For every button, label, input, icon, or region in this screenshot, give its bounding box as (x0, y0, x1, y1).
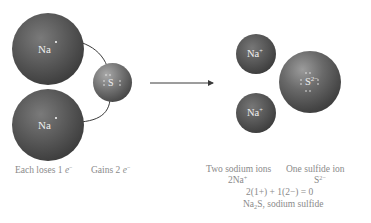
compound-name: Na2S, sodium sulfide (243, 200, 323, 210)
caption-sulfide-ion: One sulfide ion (286, 165, 345, 175)
caption-na-loses: Each loses 1 e− (15, 166, 73, 176)
caption-sodium-ions: Two sodium ions (206, 165, 271, 175)
formula-sodium-ions: 2Na+ (228, 176, 247, 186)
caption-s-gains: Gains 2 e− (91, 166, 130, 176)
charge-balance: 2(1+) + 1(2−) = 0 (246, 188, 313, 198)
ionic-bond-diagram: Na Na S Na+ Na+ S2− Each los (0, 0, 371, 223)
sulfide-electron-dots (0, 0, 371, 223)
formula-sulfide-ion: S2− (314, 176, 326, 186)
